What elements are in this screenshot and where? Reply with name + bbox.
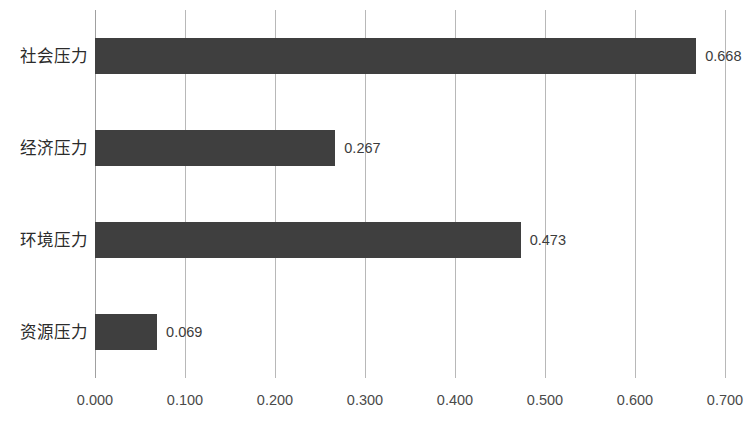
bar-row: 0.473 bbox=[95, 194, 725, 286]
plot-area: 0.6680.2670.4730.069 bbox=[95, 10, 725, 378]
category-label: 环境压力 bbox=[0, 222, 88, 258]
category-label: 社会压力 bbox=[0, 38, 88, 74]
x-tick-label: 0.100 bbox=[145, 392, 225, 408]
x-tick-label: 0.700 bbox=[685, 392, 748, 408]
x-tick-label: 0.300 bbox=[325, 392, 405, 408]
bar-row: 0.267 bbox=[95, 102, 725, 194]
x-tick-label: 0.200 bbox=[235, 392, 315, 408]
bar-value-label: 0.473 bbox=[521, 222, 566, 258]
bar-value-label: 0.069 bbox=[157, 314, 202, 350]
bar-value-label: 0.267 bbox=[335, 130, 380, 166]
bar[interactable] bbox=[95, 38, 696, 74]
bar-row: 0.069 bbox=[95, 286, 725, 378]
bar-value-label: 0.668 bbox=[696, 38, 741, 74]
bar[interactable] bbox=[95, 222, 521, 258]
category-label: 经济压力 bbox=[0, 130, 88, 166]
bar[interactable] bbox=[95, 314, 157, 350]
x-tick-label: 0.500 bbox=[505, 392, 585, 408]
category-label: 资源压力 bbox=[0, 314, 88, 350]
x-tick-label: 0.600 bbox=[595, 392, 675, 408]
bar[interactable] bbox=[95, 130, 335, 166]
x-tick-label: 0.000 bbox=[55, 392, 135, 408]
x-tick-label: 0.400 bbox=[415, 392, 495, 408]
bar-row: 0.668 bbox=[95, 10, 725, 102]
